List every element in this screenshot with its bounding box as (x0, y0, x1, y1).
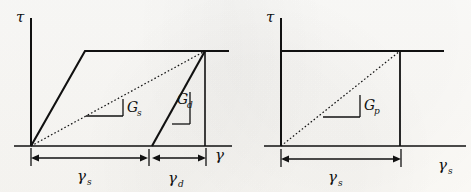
dimension-gamma-s-subscript: s (87, 177, 92, 187)
dimension-gamma-d: γ d (152, 148, 206, 189)
slope-marker-gs-subscript: s (137, 108, 142, 118)
left-panel-x-axis-label: γ (215, 146, 224, 164)
right-panel: τ γ s G p γ s (264, 8, 466, 188)
slope-marker-gd-subscript: d (187, 100, 193, 110)
dimension-gamma-s-right-arrow-left (281, 156, 289, 163)
dimension-gamma-s-right-label: γ (328, 168, 337, 186)
dimension-gamma-s-label: γ (77, 167, 86, 185)
dimension-gamma-d-label: γ (168, 169, 177, 187)
dimension-gamma-s-right-subscript: s (338, 178, 343, 188)
dimension-gamma-s-right-arrow-right (393, 156, 401, 163)
left-panel: τ γ G s G d (14, 8, 232, 189)
dimension-gamma-s-arrow-right (140, 155, 148, 162)
slope-marker-gp-subscript: p (374, 106, 380, 116)
right-panel-x-axis-label-subscript: s (448, 166, 453, 176)
dimension-gamma-d-subscript: d (178, 179, 184, 189)
right-panel-y-axis-label: τ (266, 8, 275, 26)
left-panel-y-axis-label: τ (16, 8, 25, 26)
dimension-gamma-s-arrow-left (31, 155, 39, 162)
slope-marker-gd: G d (172, 91, 193, 124)
slope-marker-gp: G p (323, 95, 380, 117)
dimension-gamma-s-right: γ s (281, 149, 401, 188)
equivalent-modulus-line (281, 51, 400, 146)
right-panel-x-axis-label: γ (438, 156, 447, 174)
dimension-gamma-d-arrow-right (198, 155, 206, 162)
dimension-gamma-s: γ s (31, 148, 149, 187)
shear-stress-strain-figure: τ γ G s G d (0, 0, 471, 192)
dimension-gamma-d-arrow-left (152, 155, 160, 162)
slope-marker-gs: G s (86, 99, 142, 118)
